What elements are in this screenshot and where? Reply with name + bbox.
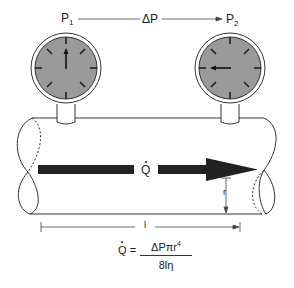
- label-p1: P1: [61, 12, 73, 24]
- formula-fraction: ΔPπr4 8lη: [140, 240, 192, 271]
- label-flow: Q: [141, 164, 150, 176]
- gauge-stems: [57, 104, 239, 124]
- p1-subscript: 1: [69, 18, 73, 27]
- label-length: l: [144, 221, 146, 230]
- formula-numerator: ΔPπr4: [140, 240, 192, 256]
- gauge-p2: [195, 33, 265, 103]
- p1-text: P: [61, 11, 69, 25]
- p2-subscript: 2: [234, 19, 238, 28]
- p2-text: P: [226, 12, 234, 26]
- numerator-exponent: 4: [177, 240, 181, 247]
- formula-denominator: 8lη: [140, 256, 192, 271]
- numerator-text: ΔPπr: [151, 241, 177, 253]
- poiseuille-formula: Q = ΔPπr4 8lη: [118, 244, 136, 256]
- label-radius: r: [223, 188, 226, 197]
- formula-equals: =: [130, 244, 136, 256]
- length-text: l: [144, 220, 146, 230]
- length-dimension: [41, 222, 240, 232]
- radius-text: r: [223, 187, 226, 197]
- formula-lhs: Q: [118, 244, 127, 256]
- flow-text: Q: [141, 164, 150, 176]
- label-delta-p: ΔP: [142, 13, 158, 25]
- delta-p-text: ΔP: [142, 12, 158, 26]
- label-p2: P2: [226, 13, 238, 25]
- gauge-p1: [31, 33, 101, 103]
